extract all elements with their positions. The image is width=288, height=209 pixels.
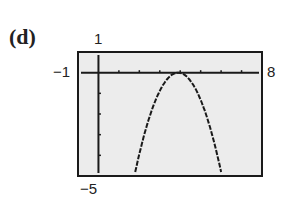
graph-screen	[0, 0, 288, 209]
screen-frame	[78, 52, 262, 176]
